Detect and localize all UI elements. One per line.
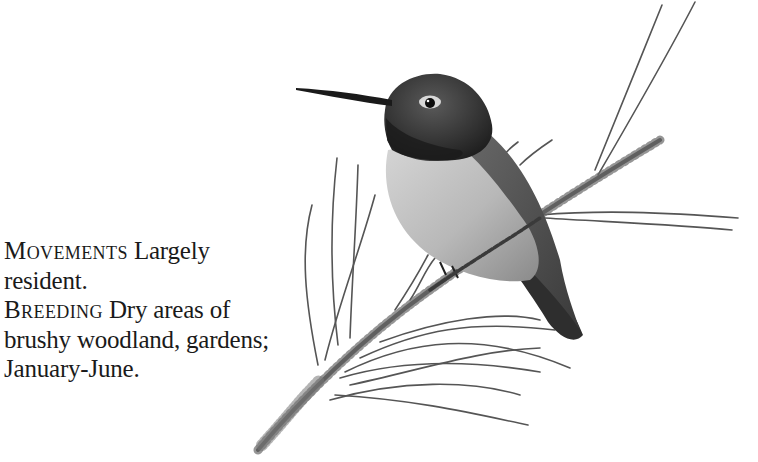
hummingbird: [296, 74, 583, 340]
breeding-heading: Breeding: [4, 296, 103, 323]
pine-needles: [305, 2, 738, 425]
species-details: Movements Largely resident. Breeding Dry…: [4, 236, 284, 384]
hummingbird-illustration: [0, 0, 758, 462]
movements-entry: Movements Largely resident.: [4, 236, 284, 295]
breeding-entry: Breeding Dry areas of brushy woodland, g…: [4, 295, 284, 384]
movements-heading: Movements: [4, 237, 128, 264]
pine-twig: [258, 140, 660, 450]
